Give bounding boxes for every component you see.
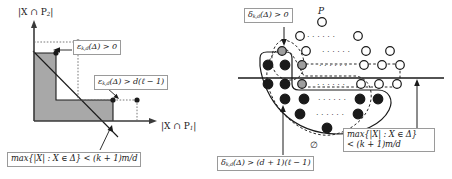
ellipsis-row5: · · · · · · xyxy=(318,95,346,104)
lattice-node-open xyxy=(386,47,395,56)
dashed-inner-lobe xyxy=(272,40,304,80)
callout-text: (Δ) > (d + 1)(ℓ − 1) xyxy=(233,157,310,167)
ellipsis-row3: · · · · · · xyxy=(319,61,347,70)
lattice-node-open xyxy=(357,80,366,89)
lattice-node-gray xyxy=(278,47,287,56)
x-axis-arrowhead xyxy=(149,118,157,124)
lattice-node-filled xyxy=(263,60,273,70)
lattice-node-filled xyxy=(353,109,363,119)
callout-epsilon-greater-zero: εk,d(Δ) > 0 xyxy=(73,40,121,55)
leader-arrowhead-max-bound xyxy=(414,79,420,86)
ellipsis-row2: · · · · · · xyxy=(322,47,350,56)
x-axis-label-prefix: |X ∩ P xyxy=(161,121,190,131)
callout-subscript: k,d xyxy=(81,45,88,51)
y-axis-label-prefix: |X ∩ P xyxy=(18,7,47,17)
callout-max-cardinality-bound-left: max{|X| : X ∈ Δ} < (k + 1)m/d xyxy=(7,152,141,167)
callout-text-line2: < (k + 1)m/d xyxy=(347,140,431,150)
poset-label: P xyxy=(318,6,324,16)
leader-arrowhead-delta-d-ell xyxy=(280,105,286,112)
x-axis-label: |X ∩ P1| xyxy=(161,121,196,131)
callout-max-cardinality-bound-right: max{|X| : X ∈ Δ}< (k + 1)m/d xyxy=(343,128,435,152)
lattice-node-open xyxy=(362,47,371,56)
lattice-node-gray xyxy=(298,80,307,89)
callout-subscript: k,d xyxy=(253,13,260,19)
callout-epsilon-greater-d-ell-minus-one: εk,d(Δ) > d(ℓ − 1) xyxy=(94,75,168,90)
lattice-point-lower-corner xyxy=(110,97,115,102)
leader-line-max-bound xyxy=(100,129,110,150)
lattice-node-open xyxy=(393,80,402,89)
leader-arrowhead-max-bound xyxy=(108,125,114,132)
callout-text: (Δ) > 0 xyxy=(89,41,118,51)
lattice-node-open xyxy=(375,80,384,89)
empty-set-label: ∅ xyxy=(310,140,318,150)
y-axis-arrowhead xyxy=(31,20,37,28)
lattice-node-open xyxy=(396,61,405,70)
lattice-node-filled xyxy=(295,109,305,119)
lattice-node-open xyxy=(378,61,387,70)
y-axis-label: |X ∩ P2| xyxy=(18,7,53,17)
lattice-node-open xyxy=(296,32,305,41)
empty-set-symbol: ∅ xyxy=(310,140,318,150)
callout-text: (Δ) > d(ℓ − 1) xyxy=(110,76,165,86)
callout-subscript: k,d xyxy=(102,80,109,86)
poset-label-text: P xyxy=(318,6,324,16)
lattice-node-open xyxy=(360,61,369,70)
callout-subscript: k,d xyxy=(226,161,233,167)
ellipsis-row4: · · · · · · xyxy=(317,80,345,89)
lattice-node-filled xyxy=(373,94,383,104)
callout-delta-greater-d-plus-one-ell-minus-one: δk,d(Δ) > (d + 1)(ℓ − 1) xyxy=(217,156,314,171)
lattice-node-gray xyxy=(298,61,307,70)
lattice-node-filled xyxy=(280,79,290,89)
callout-delta-greater-zero: δk,d(Δ) > 0 xyxy=(244,8,293,23)
lattice-node-open xyxy=(302,47,311,56)
lattice-point-lower-outer xyxy=(134,97,139,102)
lattice-node-filled xyxy=(280,94,290,104)
lattice-node-filled xyxy=(299,94,309,104)
lattice-node-open xyxy=(354,32,363,41)
lattice-node-filled xyxy=(280,60,290,70)
x-axis-label-tail: | xyxy=(193,121,196,131)
lattice-node-open xyxy=(318,18,327,27)
callout-text: (Δ) > 0 xyxy=(260,9,289,19)
ellipsis-row1: · · · · · · xyxy=(307,32,335,41)
lattice-node-filled xyxy=(263,79,273,89)
leader-arrowhead-delta-zero xyxy=(281,39,287,46)
y-axis-label-tail: | xyxy=(50,7,53,17)
lattice-node-filled xyxy=(355,94,365,104)
figure-container: · · · · · · · · · · · · · · · · · · · · … xyxy=(0,0,452,179)
lattice-node-bottom-empty-set xyxy=(322,123,332,133)
callout-text: max{|X| : X ∈ Δ} < (k + 1)m/d xyxy=(11,153,137,163)
ellipsis-row6: · · · · · · xyxy=(316,110,344,119)
